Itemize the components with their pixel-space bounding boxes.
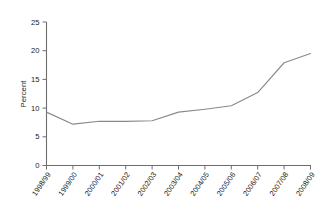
chart-canvas: 0510152025 1998/991999/002000/012001/022… <box>0 0 327 217</box>
y-axis-tick-label: 20 <box>31 46 39 55</box>
y-axis-tick-label: 25 <box>31 18 39 27</box>
y-axis-title: Percent <box>19 80 28 108</box>
y-axis-tick-label: 10 <box>31 104 39 113</box>
y-axis-tick-label: 0 <box>35 161 39 170</box>
y-axis-tick-label: 5 <box>35 132 39 141</box>
line-chart: 0510152025 1998/991999/002000/012001/022… <box>0 0 327 217</box>
y-axis-tick-label: 15 <box>31 75 39 84</box>
